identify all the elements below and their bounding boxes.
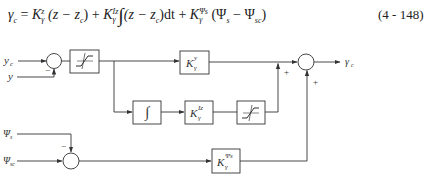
sum3-minus-sign: − <box>61 141 66 151</box>
summing-junction-3 <box>63 153 79 169</box>
out-plus-left-sign: + <box>284 67 289 77</box>
out-plus-bottom-sign: + <box>313 77 318 87</box>
output-gamma-c-sub: c <box>351 62 354 68</box>
summing-junction-output <box>298 54 314 70</box>
kiz-sub: γ <box>198 114 201 122</box>
input-yc-label: y <box>3 54 9 66</box>
sum1-minus-sign: − <box>45 65 50 75</box>
input-y-label: y <box>7 70 13 82</box>
ky-sup: y <box>193 54 198 62</box>
ky-sub: γ <box>194 64 197 72</box>
block-diagram: ∫ K y γ K Iz γ K Ψs γ y c y Ψ s Ψ sc γ c… <box>0 0 446 176</box>
output-gamma-c-label: γ <box>345 56 350 67</box>
wire-sat2-to-sum-out <box>265 64 278 113</box>
kiz-sup: Iz <box>197 104 203 112</box>
integral-icon: ∫ <box>144 104 151 121</box>
ky-K: K <box>185 57 194 69</box>
kpsi-K: K <box>216 156 225 168</box>
kpsi-sup: Ψs <box>225 152 233 160</box>
input-psi-s-sub: s <box>10 134 13 140</box>
kpsi-sub: γ <box>225 163 228 171</box>
input-yc-sub: c <box>10 60 14 68</box>
saturation-icon-2 <box>242 105 259 121</box>
kiz-K: K <box>189 107 198 119</box>
input-psi-sc-sub: sc <box>10 161 15 167</box>
saturation-icon-1 <box>76 53 93 69</box>
wire-branch-to-integrator <box>114 61 132 112</box>
